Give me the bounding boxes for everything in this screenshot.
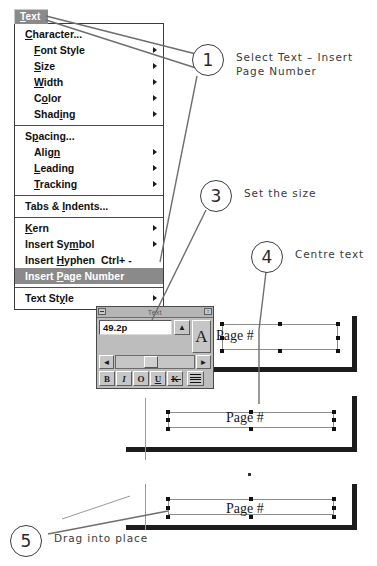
menu-item-insert-symbol[interactable]: Insert Symbol (15, 236, 163, 252)
menu-item-label: Width (34, 76, 63, 88)
size-spinner-up[interactable]: ▲ (174, 320, 190, 335)
italic-button[interactable]: I (116, 371, 132, 386)
submenu-arrow-icon (153, 149, 157, 155)
page-number-text-middle[interactable]: Page # (226, 410, 264, 426)
menu-item-insert-hyphen[interactable]: Insert HyphenCtrl+ - (15, 252, 163, 268)
outline-button[interactable]: O (133, 371, 149, 386)
step-badge-5: 5 (10, 525, 42, 557)
strikethrough-button[interactable]: K (167, 371, 183, 386)
menu-item-accel: H (57, 254, 65, 266)
resize-handle[interactable] (249, 410, 253, 414)
resize-handle[interactable] (249, 427, 253, 431)
palette-format-row: B I O U K (97, 369, 213, 386)
align-bars (190, 373, 201, 384)
menu-item-accel: o (42, 92, 48, 104)
close-icon[interactable] (98, 308, 106, 315)
resize-handle[interactable] (249, 515, 253, 519)
menu-item-accel: L (34, 162, 40, 174)
menu-group: KernInsert SymbolInsert HyphenCtrl+ -Ins… (15, 218, 163, 288)
step-badge-4: 4 (251, 241, 283, 273)
menu-item-accel: p (32, 130, 38, 142)
menu-item-label: Insert Page Number (25, 270, 124, 282)
menu-item-size[interactable]: Size (15, 58, 163, 74)
menu-title-text[interactable]: Text (14, 9, 48, 24)
resize-handle[interactable] (166, 515, 170, 519)
page-preview-bottom: Page # (126, 484, 377, 544)
resize-handle[interactable] (332, 506, 336, 510)
menu-item-label: Font Style (34, 44, 85, 56)
menu-item-accel: n (54, 146, 60, 158)
menu-title-rest: ext (26, 11, 41, 22)
resize-handle[interactable] (166, 418, 170, 422)
resize-handle[interactable] (336, 349, 340, 353)
menu-group: Spacing...AlignLeadingTracking (15, 126, 163, 196)
resize-handle[interactable] (332, 427, 336, 431)
menu-item-insert-page-number[interactable]: Insert Page Number (15, 268, 163, 284)
palette-title-label: Text (148, 309, 162, 316)
page-number-text-bottom[interactable]: Page # (226, 501, 264, 517)
menu-item-kern[interactable]: Kern (15, 220, 163, 236)
menu-item-font-style[interactable]: Font Style (15, 42, 163, 58)
menu-item-tracking[interactable]: Tracking (15, 176, 163, 192)
menu-item-align[interactable]: Align (15, 144, 163, 160)
menu-item-label: Size (34, 60, 55, 72)
menu-item-accel: W (34, 76, 44, 88)
palette-title-bar[interactable]: Text ↕ (97, 307, 213, 318)
menu-item-accel: I (62, 200, 65, 212)
menu-group: Tabs & Indents... (15, 196, 163, 218)
menu-item-leading[interactable]: Leading (15, 160, 163, 176)
menu-item-shading[interactable]: Shading (15, 106, 163, 122)
resize-handle[interactable] (220, 336, 224, 340)
menu-item-accel: P (57, 270, 64, 282)
slider-decrease-button[interactable]: ◄ (99, 355, 114, 369)
size-slider[interactable] (115, 355, 195, 369)
text-palette-window[interactable]: Text ↕ 49.2p ▲ A ◄ ► B I O U K (96, 306, 214, 389)
resize-handle[interactable] (332, 418, 336, 422)
menu-item-text-style[interactable]: Text Style (15, 290, 163, 306)
resize-handle[interactable] (332, 497, 336, 501)
callout-step-1: 1 Select Text – Insert Page Number (192, 44, 353, 78)
menu-item-tabs-indents[interactable]: Tabs & Indents... (15, 198, 163, 214)
bold-button[interactable]: B (99, 371, 115, 386)
resize-handle[interactable] (332, 515, 336, 519)
menu-item-accel: y (59, 292, 65, 304)
resize-handle[interactable] (336, 336, 340, 340)
underline-button[interactable]: U (150, 371, 166, 386)
text-menu: Text Character...Font StyleSizeWidthColo… (14, 6, 166, 310)
menu-item-width[interactable]: Width (15, 74, 163, 90)
resize-handle[interactable] (166, 506, 170, 510)
submenu-arrow-icon (153, 79, 157, 85)
resize-handle[interactable] (336, 322, 340, 326)
separator-dot (248, 473, 251, 476)
font-size-preview-icon[interactable]: A (192, 320, 211, 353)
resize-handle[interactable] (166, 410, 170, 414)
menu-item-label: Spacing... (25, 130, 75, 142)
menu-item-spacing[interactable]: Spacing... (15, 128, 163, 144)
menu-item-label: Insert Symbol (25, 238, 94, 250)
menu-item-color[interactable]: Color (15, 90, 163, 106)
resize-handle[interactable] (249, 497, 253, 501)
font-size-input[interactable]: 49.2p (99, 320, 172, 335)
underline-button-label: U (155, 374, 162, 384)
menu-group: Character...Font StyleSizeWidthColorShad… (15, 24, 163, 126)
resize-handle[interactable] (278, 349, 282, 353)
resize-handle[interactable] (332, 410, 336, 414)
resize-icon[interactable]: ↕ (204, 308, 212, 315)
resize-handle[interactable] (166, 427, 170, 431)
align-center-icon[interactable] (187, 371, 204, 386)
callout-step-5: 5 Drag into place (10, 525, 148, 557)
resize-handle[interactable] (220, 349, 224, 353)
slider-thumb[interactable] (144, 356, 158, 368)
menu-item-accel: m (69, 238, 78, 250)
resize-handle[interactable] (166, 497, 170, 501)
resize-handle[interactable] (220, 322, 224, 326)
resize-handle[interactable] (278, 322, 282, 326)
callout-step-4: 4 Centre text (251, 241, 364, 273)
menu-item-label: Text Style (25, 292, 74, 304)
slider-increase-button[interactable]: ► (196, 355, 211, 369)
submenu-arrow-icon (153, 165, 157, 171)
menu-item-shortcut: Ctrl+ - (95, 254, 132, 266)
menu-item-accel: T (34, 178, 40, 190)
menu-item-character[interactable]: Character... (15, 26, 163, 42)
step-text-5: Drag into place (54, 531, 148, 545)
